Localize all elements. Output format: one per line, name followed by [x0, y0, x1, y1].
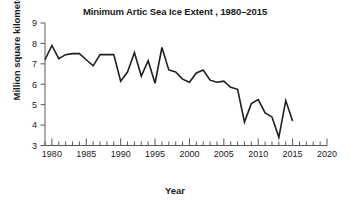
y-tick-label: 5 — [32, 100, 37, 110]
x-tick-label: 2020 — [317, 149, 337, 159]
x-tick-label: 1980 — [42, 149, 62, 159]
y-tick-label: 3 — [32, 141, 37, 151]
y-tick-label: 6 — [32, 80, 37, 90]
y-axis-tick-labels: 3456789 — [32, 18, 37, 151]
y-tick-label: 4 — [32, 120, 37, 130]
x-axis-tick-labels: 198019851990199520002005201020152020 — [42, 149, 337, 159]
x-tick-label: 2010 — [248, 149, 268, 159]
line-chart-plot: 3456789 19801985199019952000200520102015… — [0, 0, 350, 205]
y-axis: 3456789 — [32, 18, 45, 151]
sea-ice-extent-series — [45, 45, 293, 137]
y-axis-ticks — [41, 23, 46, 146]
x-tick-label: 2005 — [214, 149, 234, 159]
x-axis: 198019851990199520002005201020152020 — [42, 139, 337, 160]
y-tick-label: 9 — [32, 18, 37, 28]
x-tick-label: 2015 — [283, 149, 303, 159]
y-tick-label: 7 — [32, 59, 37, 69]
x-tick-label: 1995 — [145, 149, 165, 159]
x-tick-label: 2000 — [179, 149, 199, 159]
x-tick-label: 1985 — [76, 149, 96, 159]
y-tick-label: 8 — [32, 39, 37, 49]
x-tick-label: 1990 — [111, 149, 131, 159]
chart-page: Minimum Artic Sea Ice Extent , 1980–2015… — [0, 0, 350, 205]
